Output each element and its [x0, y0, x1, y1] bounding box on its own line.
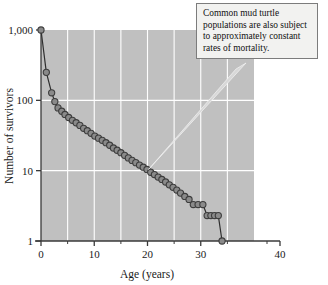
y-axis-title: Number of survivors: [3, 88, 15, 184]
x-axis-title: Age (years): [120, 268, 174, 281]
data-point: [219, 238, 225, 244]
y-tick-label: 1: [28, 235, 34, 247]
x-tick-label: 40: [275, 248, 287, 260]
annotation-callout-text: Common mud turtle populations are also s…: [203, 8, 312, 54]
x-tick-labels: 010203040: [38, 248, 286, 260]
figure-container: 010203040 1101001,000 Age (years) Number…: [0, 0, 328, 285]
data-point: [52, 98, 58, 104]
x-tick-label: 0: [38, 248, 44, 260]
y-tick-label: 10: [22, 165, 34, 177]
data-point: [49, 90, 55, 96]
data-point: [38, 27, 44, 33]
x-tick-label: 30: [195, 248, 207, 260]
annotation-callout: Common mud turtle populations are also s…: [196, 3, 318, 59]
data-point: [215, 212, 221, 218]
y-tick-label: 1,000: [8, 24, 33, 36]
data-point: [43, 69, 49, 75]
data-point: [200, 201, 206, 207]
y-tick-label: 100: [17, 94, 34, 106]
x-tick-label: 10: [89, 248, 101, 260]
x-tick-label: 20: [142, 248, 154, 260]
